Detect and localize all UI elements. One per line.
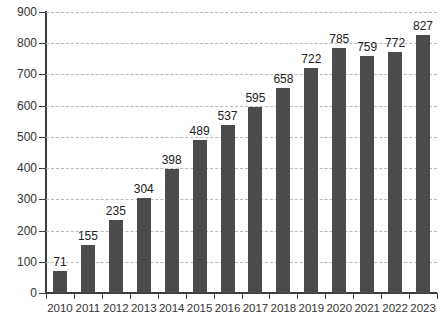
bar[interactable] <box>81 245 95 293</box>
x-axis-tick <box>437 293 438 299</box>
bar-value-label: 658 <box>266 73 300 85</box>
bar-value-label: 235 <box>99 205 133 217</box>
x-axis-tick <box>214 293 215 299</box>
gridline <box>46 12 437 13</box>
gridline <box>46 199 437 200</box>
x-axis-tick <box>297 293 298 299</box>
bar-value-label: 722 <box>294 53 328 65</box>
bar[interactable] <box>304 68 318 293</box>
bar-value-label: 489 <box>183 125 217 137</box>
x-axis-tick <box>242 293 243 299</box>
bar-value-label: 155 <box>71 230 105 242</box>
x-axis-tick <box>74 293 75 299</box>
bar[interactable] <box>221 125 235 293</box>
bar[interactable] <box>53 271 67 293</box>
bar-value-label: 827 <box>406 20 440 32</box>
y-axis-tick-label: 700 <box>1 68 37 80</box>
x-axis-tick-label: 2023 <box>406 302 440 315</box>
y-axis-tick-label: 400 <box>1 162 37 174</box>
gridline <box>46 74 437 75</box>
bar[interactable] <box>137 198 151 293</box>
bar[interactable] <box>416 35 430 293</box>
bar[interactable] <box>193 140 207 293</box>
bar[interactable] <box>276 88 290 293</box>
x-axis-tick <box>186 293 187 299</box>
y-axis-tick-label: 900 <box>1 6 37 18</box>
y-axis-tick-label: 600 <box>1 100 37 112</box>
bar-value-label: 304 <box>127 183 161 195</box>
x-axis-tick <box>158 293 159 299</box>
y-axis-tick-label: 200 <box>1 225 37 237</box>
y-axis-tick-label: 300 <box>1 193 37 205</box>
x-axis-tick <box>325 293 326 299</box>
bar[interactable] <box>248 107 262 293</box>
bar-value-label: 537 <box>211 110 245 122</box>
gridline <box>46 106 437 107</box>
x-axis-tick <box>381 293 382 299</box>
bar-value-label: 71 <box>43 256 77 268</box>
x-axis-tick <box>130 293 131 299</box>
bar[interactable] <box>388 52 402 293</box>
y-axis-tick-label: 800 <box>1 37 37 49</box>
bar[interactable] <box>165 169 179 293</box>
x-axis-tick <box>269 293 270 299</box>
y-axis-tick-label: 100 <box>1 256 37 268</box>
gridline <box>46 168 437 169</box>
gridline <box>46 262 437 263</box>
bar[interactable] <box>332 48 346 293</box>
x-axis-tick <box>46 293 47 299</box>
y-axis-labels: 0100200300400500600700800900 <box>0 0 37 325</box>
gridline <box>46 137 437 138</box>
bar-value-label: 398 <box>155 154 189 166</box>
x-axis-tick <box>102 293 103 299</box>
x-axis-tick <box>409 293 410 299</box>
y-axis-tick-label: 500 <box>1 131 37 143</box>
plot-area: 7115523530439848953759565872278575977282… <box>46 12 437 293</box>
bar-chart: 0100200300400500600700800900 71155235304… <box>0 0 443 325</box>
y-axis-tick-label: 0 <box>1 287 37 299</box>
bar-value-label: 595 <box>238 92 272 104</box>
bar[interactable] <box>360 56 374 293</box>
bar[interactable] <box>109 220 123 293</box>
x-axis-tick <box>353 293 354 299</box>
bar-value-label: 772 <box>378 37 412 49</box>
